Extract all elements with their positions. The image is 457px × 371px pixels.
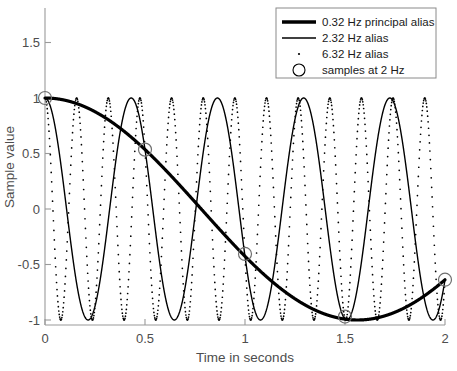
- series-dot: [49, 138, 51, 140]
- series-dot: [373, 289, 375, 291]
- series-dot: [157, 313, 159, 315]
- series-dot: [331, 109, 333, 111]
- series-dot: [239, 152, 241, 154]
- series-dot: [276, 262, 278, 264]
- series-dot: [77, 99, 79, 101]
- series-dot: [213, 266, 215, 268]
- series-dot: [208, 162, 210, 164]
- series-dot: [403, 272, 405, 274]
- series-dot: [151, 284, 153, 286]
- series-dot: [419, 149, 421, 151]
- series-dot: [178, 192, 180, 194]
- series-dot: [379, 302, 381, 304]
- series-dot: [74, 102, 76, 104]
- series-dot: [269, 127, 271, 129]
- series-dot: [243, 227, 245, 229]
- series-dot: [397, 152, 399, 154]
- series-dot: [157, 309, 159, 311]
- series-dot: [286, 279, 288, 281]
- series-dot: [199, 124, 201, 126]
- series-dot: [416, 214, 418, 216]
- series-dot: [285, 299, 287, 301]
- series-dot: [101, 185, 103, 187]
- series-dot: [117, 254, 119, 256]
- series-dot: [399, 179, 401, 181]
- series-dot: [365, 130, 367, 132]
- series-dot: [388, 139, 390, 141]
- series-dot: [264, 105, 266, 107]
- series-dot: [149, 261, 151, 263]
- series-dot: [433, 235, 435, 237]
- series-dot: [381, 268, 383, 270]
- series-dot: [423, 100, 425, 102]
- series-dot: [256, 243, 258, 245]
- series-dot: [277, 271, 279, 273]
- series-dot: [336, 192, 338, 194]
- series-dot: [232, 109, 234, 111]
- series-dot: [58, 314, 60, 316]
- series-dot: [189, 306, 191, 308]
- series-dot: [414, 252, 416, 254]
- series-dot: [226, 212, 228, 214]
- series-dot: [230, 132, 232, 134]
- series-dot: [52, 200, 54, 202]
- series-dot: [310, 303, 312, 305]
- series-dot: [136, 115, 138, 117]
- series-dot: [66, 250, 68, 252]
- series-dot: [259, 185, 261, 187]
- series-dot: [407, 316, 409, 318]
- series-dot: [289, 226, 291, 228]
- series-dot: [146, 194, 148, 196]
- series-dot: [130, 235, 132, 237]
- series-dot: [370, 239, 372, 241]
- series-dot: [326, 111, 328, 113]
- series-dot: [338, 231, 340, 233]
- series-dot: [228, 164, 230, 166]
- x-axis-title: Time in seconds: [196, 350, 294, 365]
- series-dot: [189, 310, 191, 312]
- x-tick-label: 1: [241, 331, 248, 346]
- series-dot: [216, 306, 218, 308]
- series-dot: [256, 252, 258, 254]
- series-dot: [260, 166, 262, 168]
- series-dot: [161, 256, 163, 258]
- series-dot: [73, 119, 75, 121]
- series-dot: [179, 222, 181, 224]
- series-dot: [85, 237, 87, 239]
- series-dot: [285, 293, 287, 295]
- series-dot: [216, 310, 218, 312]
- series-dot: [110, 115, 112, 117]
- series-dot: [400, 208, 402, 210]
- series-dot: [221, 307, 223, 309]
- series-dot: [129, 245, 131, 247]
- series-dot: [396, 129, 398, 131]
- series-dot: [135, 128, 137, 130]
- series-dot: [54, 248, 56, 250]
- series-dot: [231, 119, 233, 121]
- series-dot: [69, 193, 71, 195]
- series-dot: [317, 294, 319, 296]
- series-dot: [79, 117, 81, 119]
- series-dot: [257, 214, 259, 216]
- series-dot: [355, 163, 357, 165]
- series-dot: [145, 175, 147, 177]
- series-dot: [417, 185, 419, 187]
- series-dot: [162, 218, 164, 220]
- series-dot: [195, 191, 197, 193]
- series-dot: [305, 194, 307, 196]
- series-dot: [57, 306, 59, 308]
- series-dot: [122, 315, 124, 317]
- series-dot: [339, 250, 341, 252]
- series-dot: [259, 176, 261, 178]
- series-dot: [86, 256, 88, 258]
- series-dot: [58, 310, 60, 312]
- series-dot: [410, 308, 412, 310]
- series-dot: [199, 118, 201, 120]
- series-dot: [195, 200, 197, 202]
- series-dot: [285, 286, 287, 288]
- series-dot: [104, 120, 106, 122]
- series-dot: [83, 198, 85, 200]
- series-dot: [311, 312, 313, 314]
- series-dot: [106, 100, 108, 102]
- series-dot: [381, 276, 383, 278]
